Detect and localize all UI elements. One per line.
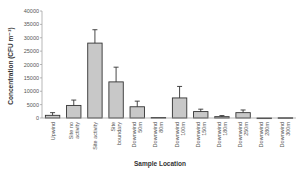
x-tick-label: Siteboundary xyxy=(110,122,122,145)
y-tick-label: 20000 xyxy=(24,62,39,68)
bar xyxy=(172,98,186,118)
x-tick-label-line: 80m xyxy=(158,122,164,133)
x-tick-label-line: 300m xyxy=(285,122,291,136)
y-axis: 0500010000150002000025000300003500040000 xyxy=(24,8,42,121)
x-tick-label-line: 50m xyxy=(137,122,143,133)
y-tick-label: 15000 xyxy=(24,75,39,81)
y-tick-label: 35000 xyxy=(24,21,39,27)
y-axis-title: Concentration (CFU m⁻³) xyxy=(7,27,15,104)
x-tick-label-line: 280m xyxy=(264,122,270,136)
x-tick-label: Downwind280m xyxy=(258,122,270,148)
bar xyxy=(130,107,144,118)
x-tick-label-line: boundary xyxy=(116,122,122,145)
x-tick-label: Downwind50m xyxy=(131,122,143,148)
bar-chart: 0500010000150002000025000300003500040000… xyxy=(0,0,302,173)
bar xyxy=(88,43,102,118)
y-tick-label: 5000 xyxy=(27,102,39,108)
x-tick-label: Downwind100m xyxy=(174,122,186,148)
x-tick-label: Downwind250m xyxy=(237,122,249,148)
x-axis: UpwindSite noactivitySite activitySitebo… xyxy=(42,118,296,150)
x-tick-label-line: 180m xyxy=(222,122,228,136)
bars xyxy=(45,30,292,119)
x-tick-label: Site noactivity xyxy=(68,122,80,139)
bar xyxy=(67,105,81,118)
y-tick-label: 10000 xyxy=(24,88,39,94)
y-tick-label: 40000 xyxy=(24,8,39,14)
x-tick-label-line: 250m xyxy=(243,122,249,136)
x-tick-label-line: Upwind xyxy=(50,122,56,140)
y-tick-label: 30000 xyxy=(24,35,39,41)
x-tick-label: Site activity xyxy=(92,122,98,150)
y-tick-label: 25000 xyxy=(24,48,39,54)
x-tick-label: Upwind xyxy=(50,122,56,140)
x-tick-label-line: 100m xyxy=(180,122,186,136)
bar xyxy=(45,115,59,118)
x-tick-label-line: 150m xyxy=(201,122,207,136)
x-tick-label: Downwind80m xyxy=(152,122,164,148)
bar xyxy=(194,112,208,118)
bar xyxy=(109,82,123,118)
y-tick-label: 0 xyxy=(36,115,39,121)
x-axis-title: Sample Location xyxy=(134,160,186,168)
x-tick-label: Downwind180m xyxy=(216,122,228,148)
x-tick-label-line: Site activity xyxy=(92,122,98,150)
x-tick-label: Downwind300m xyxy=(279,122,291,148)
x-tick-label-line: activity xyxy=(74,122,80,139)
bar xyxy=(236,113,250,118)
x-tick-label: Downwind150m xyxy=(195,122,207,148)
